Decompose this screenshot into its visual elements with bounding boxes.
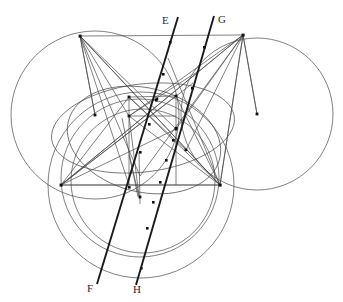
- left-circle-center-dot: [94, 114, 97, 117]
- chord-C-to-P9: [61, 83, 193, 185]
- chord-P5-to-P4: [129, 70, 200, 116]
- vertex-bottom-right: [219, 184, 222, 187]
- geometry-figure: E G F H: [0, 0, 343, 302]
- label-F: F: [87, 282, 93, 294]
- node-intersect-b: [156, 98, 159, 101]
- node-mid-right-box: [175, 128, 178, 131]
- chords-from-bottom-left: [61, 35, 243, 185]
- vertex-top-left: [79, 35, 82, 38]
- geometry-canvas: E G F H: [0, 0, 343, 302]
- marked-point-gh-9: [140, 267, 143, 270]
- cross-chords: [122, 70, 200, 197]
- label-H: H: [133, 283, 141, 295]
- marked-point-gh-7: [152, 201, 155, 204]
- marked-point-ef-4: [148, 123, 151, 126]
- chord-lower-left-stub: [129, 116, 139, 196]
- vertex-top-right: [242, 34, 245, 37]
- marked-point-ef-6: [128, 186, 131, 189]
- transversal-line-EF: [97, 17, 178, 284]
- marked-point-ef-1: [169, 41, 172, 44]
- marked-point-gh-6: [159, 181, 162, 184]
- chord-C-to-P3: [61, 97, 129, 185]
- chord-A-to-P8: [80, 36, 140, 176]
- marked-point-gh-8: [146, 227, 149, 230]
- marked-point-gh-1: [203, 46, 206, 49]
- bottom-circle-center-dot: [139, 196, 142, 199]
- marked-point-ef-5: [139, 151, 142, 154]
- marked-point-ef-2: [162, 73, 165, 76]
- chord-C-to-B: [61, 35, 243, 185]
- chord-A-to-P7: [80, 36, 129, 185]
- edge-top: [80, 35, 243, 36]
- transversal-line-GH: [136, 16, 214, 285]
- node-upper-right-box: [175, 95, 178, 98]
- node-intersect-a: [185, 149, 188, 152]
- label-G: G: [218, 13, 226, 25]
- oblique-ellipse-2: [56, 71, 233, 210]
- right-circle-center-dot: [256, 113, 259, 116]
- marked-point-gh-2: [191, 87, 194, 90]
- ellipses-group: [46, 71, 239, 210]
- label-E: E: [162, 14, 169, 26]
- node-upper-left-box: [128, 96, 131, 99]
- marked-point-gh-4: [172, 139, 175, 142]
- spur-right-to-center: [243, 35, 257, 114]
- marked-point-gh-5: [165, 159, 168, 162]
- vertex-bottom-left: [60, 184, 63, 187]
- node-mid-left-box: [128, 115, 131, 118]
- inner-circle: [61, 99, 219, 257]
